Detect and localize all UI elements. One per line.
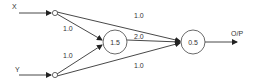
weight-x-to-hidden: 1.0 [63, 25, 73, 32]
weight-x-to-output: 1.0 [134, 12, 144, 19]
input-label-y: Y [15, 66, 20, 73]
weight-y-to-output: 1.0 [134, 62, 144, 69]
weight-y-to-hidden: 1.0 [63, 52, 73, 59]
output-node-threshold: 0.5 [188, 39, 198, 46]
input-node-x [52, 10, 57, 15]
neural-network-diagram: X Y 1.5 0.5 1.0 1.0 1.0 2.0 1.0 O/P [0, 0, 253, 80]
weight-hidden-to-output: 2.0 [134, 33, 144, 40]
output-label: O/P [231, 30, 243, 37]
edge-hidden-to-output [127, 40, 180, 42]
input-label-x: X [12, 3, 17, 10]
input-node-y [52, 72, 57, 77]
hidden-node-threshold: 1.5 [110, 39, 120, 46]
